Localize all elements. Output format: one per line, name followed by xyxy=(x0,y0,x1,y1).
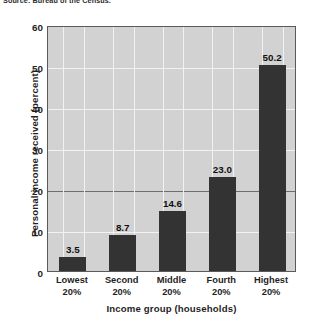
bar: 14.6 xyxy=(159,211,186,271)
x-axis-tick-label: Highest20% xyxy=(254,275,288,298)
y-axis-tick-label: 20 xyxy=(32,186,43,197)
gridline-vertical xyxy=(84,27,85,271)
y-axis-tick-label: 60 xyxy=(32,22,43,33)
gridline-vertical xyxy=(63,27,64,271)
x-axis-tick-label: Fourth20% xyxy=(207,275,236,298)
bar: 3.5 xyxy=(59,257,86,271)
x-axis-tick-line: 20% xyxy=(254,287,288,299)
bar-value-label: 3.5 xyxy=(66,244,80,255)
x-axis-tick-label: Middle20% xyxy=(157,275,186,298)
x-axis-tick-line: 20% xyxy=(105,287,139,299)
bar-value-label: 50.2 xyxy=(263,52,282,63)
bar: 50.2 xyxy=(259,65,286,271)
bar-value-label: 8.7 xyxy=(116,222,130,233)
source-note: Source: Bureau of the Census. xyxy=(3,0,111,5)
x-axis-tick-line: Second xyxy=(105,275,139,287)
x-axis-tick-line: Fourth xyxy=(207,275,236,287)
x-axis-tick-line: 20% xyxy=(207,287,236,299)
bar: 8.7 xyxy=(109,235,136,271)
chart-figure: Source: Bureau of the Census. Personal i… xyxy=(0,0,312,330)
bar: 23.0 xyxy=(209,177,236,271)
y-axis-tick-label: 50 xyxy=(32,63,43,74)
y-axis-tick-label: 40 xyxy=(32,104,43,115)
x-axis-tick-line: 20% xyxy=(56,287,88,299)
plot-area: 01020304050603.58.714.623.050.2 xyxy=(47,26,296,272)
bar-value-label: 14.6 xyxy=(163,198,182,209)
bar-value-label: 23.0 xyxy=(213,164,232,175)
x-axis-tick-label: Second20% xyxy=(105,275,139,298)
x-axis-tick-line: 20% xyxy=(157,287,186,299)
x-axis-tick-line: Highest xyxy=(254,275,288,287)
y-axis-tick-label: 30 xyxy=(32,145,43,156)
x-axis-tick-label: Lowest20% xyxy=(56,275,88,298)
x-axis-title: Income group (households) xyxy=(47,303,296,314)
x-axis-tick-line: Middle xyxy=(157,275,186,287)
x-axis-tick-line: Lowest xyxy=(56,275,88,287)
y-axis-tick-label: 0 xyxy=(38,268,43,279)
y-axis-tick-label: 10 xyxy=(32,227,43,238)
